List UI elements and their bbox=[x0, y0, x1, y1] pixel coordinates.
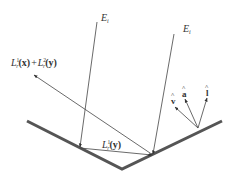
reflection-diagram: Ei Ei L1r(x)+L2r(y) L1r(y) v ^ a ^ l ^ bbox=[0, 0, 234, 178]
incident-ray-left bbox=[80, 22, 97, 147]
label-incident-right: Ei bbox=[182, 23, 191, 35]
vector-a-arrow bbox=[185, 99, 198, 128]
label-reflected-sum: L1r(x)+L2r(y) bbox=[10, 57, 57, 69]
surface bbox=[27, 121, 222, 169]
reflected-ray bbox=[34, 75, 153, 155]
label-incident-left: Ei bbox=[100, 12, 109, 24]
label-interreflection: L1r(y) bbox=[101, 139, 121, 151]
vector-v-arrow bbox=[175, 107, 198, 128]
vector-l-arrow bbox=[198, 98, 207, 128]
